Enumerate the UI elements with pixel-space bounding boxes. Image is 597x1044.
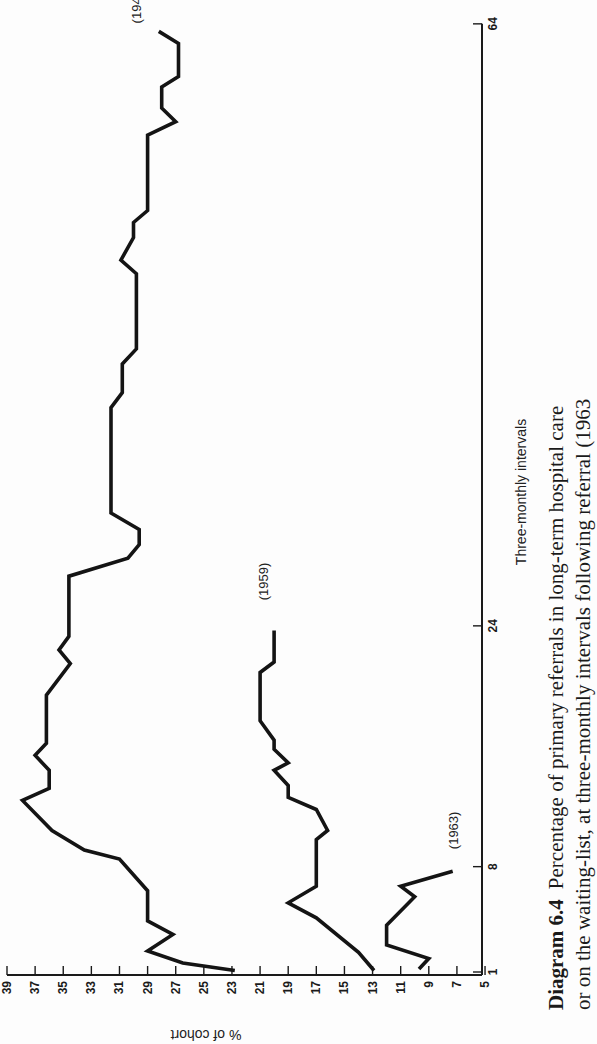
y-tick-label: 25: [197, 981, 211, 995]
y-tick-label: 39: [0, 981, 14, 995]
caption-diagram-number: Diagram 6.4: [544, 899, 568, 1010]
figure-caption: Diagram 6.4Percentage of primary referra…: [544, 399, 595, 1010]
y-tick-label: 7: [450, 981, 464, 988]
series-line-1959: [260, 630, 374, 970]
y-tick-label: 19: [281, 981, 295, 995]
series-labels: (1949)(1959)(1963): [129, 0, 461, 849]
series-layer: [23, 31, 453, 970]
x-tick-label: 8: [486, 863, 500, 870]
y-tick-label: 15: [337, 981, 351, 995]
x-tick-label: 1: [486, 968, 500, 975]
x-axis-title: Three-monthly intervals: [513, 419, 529, 565]
series-label-1963: (1963): [446, 812, 461, 850]
y-tick-label: 17: [309, 981, 323, 995]
y-tick-label: 33: [84, 981, 98, 995]
caption-line-2: or on the waiting-list, at three-monthly…: [571, 399, 595, 1010]
series-label-1949: (1949): [129, 0, 144, 23]
x-axis-three-monthly-intervals: 182464: [473, 17, 500, 975]
line-chart: 393735333129272523211917151311975 182464…: [0, 0, 597, 1044]
y-tick-label: 29: [141, 981, 155, 995]
y-tick-label: 21: [253, 981, 267, 995]
y-axis-percent-of-cohort: 393735333129272523211917151311975: [0, 966, 492, 994]
y-tick-label: 23: [225, 981, 239, 995]
caption-line-1-text: Percentage of primary referrals in long-…: [544, 406, 568, 889]
y-tick-label: 13: [366, 981, 380, 995]
y-tick-label: 27: [169, 981, 183, 995]
caption-line-1: Diagram 6.4Percentage of primary referra…: [544, 406, 568, 1010]
y-tick-label: 9: [422, 981, 436, 988]
x-tick-label: 24: [486, 619, 500, 633]
x-tick-label: 64: [486, 17, 500, 31]
y-tick-label: 31: [112, 981, 126, 995]
y-tick-label: 5: [478, 981, 492, 988]
series-line-1949: [23, 31, 235, 970]
series-line-1963: [387, 871, 453, 969]
y-tick-label: 35: [56, 981, 70, 995]
y-tick-label: 11: [394, 981, 408, 994]
y-axis-title: % of cohort: [170, 1027, 241, 1043]
series-label-1959: (1959): [256, 563, 271, 601]
y-tick-label: 37: [28, 981, 42, 995]
